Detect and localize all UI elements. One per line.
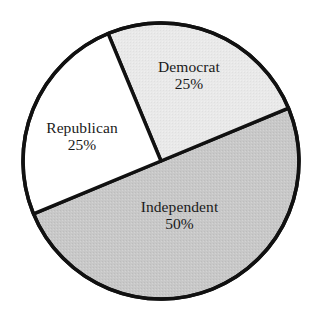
pie-label-republican-name: Republican (22, 119, 142, 136)
pie-chart-graphic (0, 0, 323, 321)
pie-label-independent: Independent 50% (112, 198, 247, 233)
pie-label-republican-percent: 25% (22, 136, 142, 153)
pie-label-democrat: Democrat 25% (133, 58, 245, 93)
pie-label-democrat-name: Democrat (133, 58, 245, 75)
pie-label-democrat-percent: 25% (133, 75, 245, 92)
pie-label-independent-percent: 50% (112, 215, 247, 232)
pie-label-independent-name: Independent (112, 198, 247, 215)
pie-chart: Democrat 25% Republican 25% Independent … (0, 0, 323, 321)
pie-label-republican: Republican 25% (22, 119, 142, 154)
